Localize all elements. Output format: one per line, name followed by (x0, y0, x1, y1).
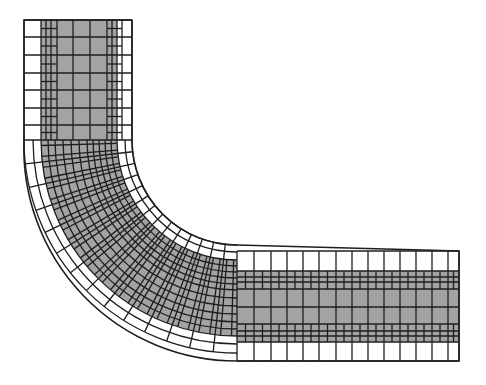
vertical-core-band (41, 20, 117, 140)
region-fills (24, 20, 459, 361)
mesh-diagram (0, 0, 486, 385)
mesh-canvas (0, 0, 486, 385)
